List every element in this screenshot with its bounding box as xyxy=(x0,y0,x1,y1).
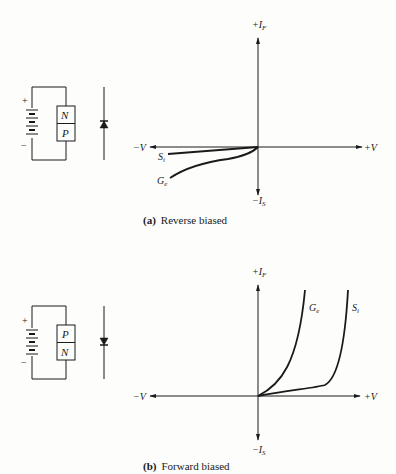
curve-label-si: Si xyxy=(158,151,165,164)
panel-b-forward-biased: + − P N −V +V +IF −IS Ge Si (b)Forward b… xyxy=(21,266,379,473)
caption-a: (a)Reverse biased xyxy=(143,214,228,227)
curve-label-ge: Ge xyxy=(157,175,167,188)
y-neg-label: −IS xyxy=(252,444,266,457)
curve-label-si: Si xyxy=(352,302,359,315)
y-neg-label: −IS xyxy=(252,195,266,208)
battery-plus: + xyxy=(22,315,28,326)
x-neg-label: −V xyxy=(133,391,148,402)
junction-bottom-label: N xyxy=(60,346,69,358)
caption-b: (b)Forward biased xyxy=(143,460,230,473)
junction-top-label: P xyxy=(61,328,69,340)
wire-bottom xyxy=(32,141,66,160)
curve-ge-reverse xyxy=(170,147,258,178)
battery-minus: − xyxy=(21,140,27,151)
curve-si-reverse xyxy=(168,147,258,154)
wire-top xyxy=(32,87,66,106)
wire-top xyxy=(32,306,66,325)
wire-bottom xyxy=(32,360,66,379)
axes-b xyxy=(150,285,360,440)
junction-top-label: N xyxy=(60,109,69,121)
x-neg-label: −V xyxy=(133,142,148,153)
y-pos-label: +IF xyxy=(252,266,267,279)
diode-down-icon xyxy=(100,306,108,379)
battery-minus: − xyxy=(21,357,27,368)
battery-icon xyxy=(26,330,38,354)
junction-bottom-label: P xyxy=(61,127,69,139)
curve-label-ge: Ge xyxy=(309,302,319,315)
battery-icon xyxy=(26,110,38,134)
circuit-a xyxy=(26,87,75,160)
circuit-b xyxy=(26,306,75,379)
x-pos-label: +V xyxy=(364,142,379,153)
x-pos-label: +V xyxy=(364,391,379,402)
diode-up-icon xyxy=(100,87,108,160)
y-pos-label: +IF xyxy=(252,19,267,32)
panel-a-reverse-biased: + − N P −V +V +IF −IS Si Ge (a)Reverse b… xyxy=(21,19,379,227)
curve-ge-forward xyxy=(258,290,305,396)
diode-bias-diagram: + − N P −V +V +IF −IS Si Ge (a)Reverse b… xyxy=(0,0,396,474)
battery-plus: + xyxy=(22,95,28,106)
